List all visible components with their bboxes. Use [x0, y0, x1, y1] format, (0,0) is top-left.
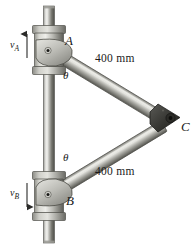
label-length-bottom: 400 mm	[95, 166, 135, 178]
mechanism-drawing	[0, 0, 194, 249]
label-velocity-a: vA	[10, 40, 19, 53]
velocity-a-subscript: A	[14, 44, 19, 53]
label-point-c: C	[181, 120, 190, 133]
label-point-a: A	[65, 34, 73, 47]
label-velocity-b: vB	[10, 188, 19, 201]
label-point-b: B	[66, 194, 74, 207]
label-theta-top: θ	[63, 70, 68, 81]
label-theta-bottom: θ	[63, 152, 68, 163]
mechanism-figure: A B C θ θ 400 mm 400 mm vA vB	[0, 0, 194, 249]
joint-c	[150, 104, 180, 132]
label-length-top: 400 mm	[95, 53, 135, 65]
velocity-b-subscript: B	[14, 192, 19, 201]
